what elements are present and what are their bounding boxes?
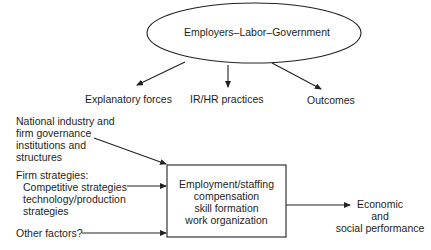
branch-irhr-practices: IR/HR practices xyxy=(190,93,264,105)
ellipse-label: Employers–Labor–Government xyxy=(184,26,330,38)
output-performance: Economic and social performance xyxy=(332,198,428,238)
branch-explanatory-forces: Explanatory forces xyxy=(85,93,172,105)
arrow-outcomes xyxy=(272,63,321,89)
input-other-factors: Other factors? xyxy=(16,227,83,239)
arrow-national xyxy=(94,138,166,164)
firm-strategies-heading: Firm strategies: xyxy=(16,169,88,181)
practices-box: Employment/staffing compensation skill f… xyxy=(167,165,286,237)
arrow-explanatory xyxy=(137,62,185,85)
branch-outcomes: Outcomes xyxy=(307,94,355,106)
